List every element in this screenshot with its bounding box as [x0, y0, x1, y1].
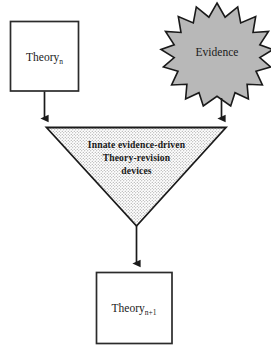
revision-devices-line-3: devices: [121, 165, 151, 176]
evidence-label: Evidence: [196, 46, 239, 58]
revision-devices-line-1: Innate evidence-driven: [88, 139, 186, 150]
theory-n-label-text: Theory: [26, 51, 59, 64]
diagram-canvas: Theoryn Evidence Innate evidence-driven …: [0, 0, 271, 355]
revision-devices-line-2: Theory-revision: [103, 152, 171, 163]
theory-n-plus-1-subscript: n+1: [145, 308, 157, 317]
theory-n-plus-1-label-text: Theory: [112, 302, 145, 315]
node-revision-devices: Innate evidence-driven Theory-revision d…: [47, 128, 227, 227]
node-theory-n: Theoryn: [11, 22, 79, 92]
node-theory-n-plus-1: Theoryn+1: [97, 273, 173, 344]
theory-n-subscript: n: [59, 57, 63, 66]
node-evidence: Evidence: [161, 3, 271, 106]
theory-revision-diagram: Theoryn Evidence Innate evidence-driven …: [0, 0, 271, 355]
